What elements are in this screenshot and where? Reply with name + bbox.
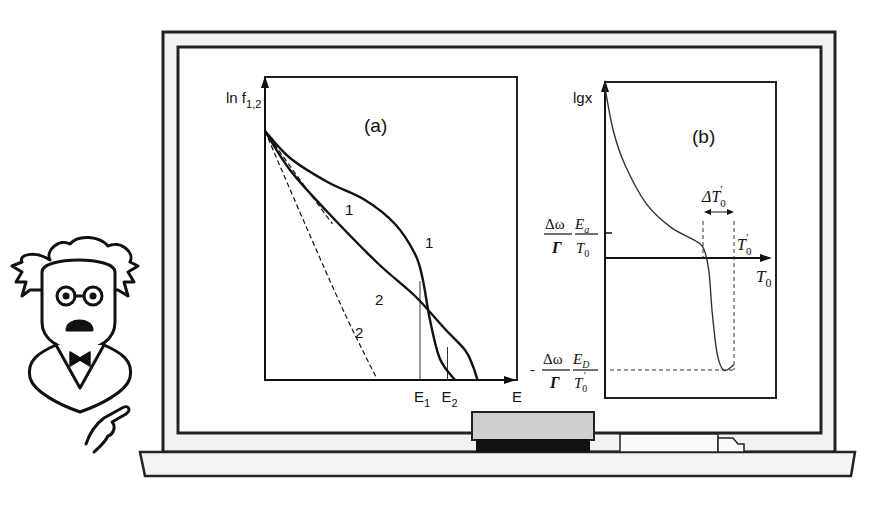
chalk-stick (620, 434, 718, 452)
panel-a-curve-label: 2 (355, 324, 363, 341)
panel-a-curve-label: 2 (375, 291, 383, 308)
panel-b-label: (b) (692, 126, 715, 147)
face-icon (42, 260, 115, 350)
pointing-hand-icon (86, 407, 129, 452)
frac3-num: Δω (543, 351, 563, 367)
panel-b-ylabel: lgx (573, 89, 593, 106)
board-surface (178, 47, 821, 433)
panel-a-xlabel: E (512, 388, 522, 405)
eye-left-icon (63, 293, 70, 300)
mustache-icon (67, 321, 92, 330)
frac3-den: Γ (549, 374, 560, 391)
frac1-den: Γ (551, 239, 562, 256)
eye-right-icon (90, 293, 97, 300)
eraser-felt (476, 439, 590, 452)
tray-ledge (140, 452, 855, 476)
eraser-top (472, 412, 594, 440)
panel-a-curve-label: 1 (425, 234, 433, 251)
scene: 1122 (a) ln f1,2 E E1E2 (b) lgx T0 ΔT0′ … (0, 0, 874, 507)
frac1-num: Δω (545, 216, 565, 232)
frac3-minus: - (530, 361, 535, 377)
body-icon (29, 345, 130, 412)
panel-a-label: (a) (364, 115, 387, 136)
panel-a-curve-label: 1 (345, 201, 353, 218)
professor-icon (12, 237, 138, 452)
